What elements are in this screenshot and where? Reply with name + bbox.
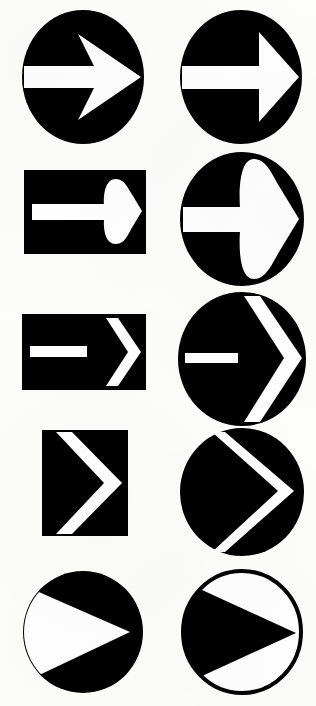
- figure-circle-outline-solid-triangle-black: [180, 568, 304, 696]
- arrow-symbol-sheet: Arrow Symbol Variations Scanned referenc…: [0, 0, 316, 706]
- figure-circle-chevron-only: [180, 428, 304, 556]
- circle-chevron-only-icon: [180, 428, 304, 556]
- figure-circle-arrow-straight-head: [180, 10, 302, 144]
- circle-bar-and-chevron-icon: [178, 292, 306, 426]
- circle-outline-solid-triangle-black-icon: [180, 568, 304, 696]
- rectangle-bar-and-chevron-icon: [22, 314, 146, 390]
- circle-negative-triangle-white-icon: [22, 570, 144, 694]
- figure-rectangle-bar-and-chevron: [22, 314, 146, 390]
- figure-rectangle-chevron-only: [42, 430, 128, 536]
- figure-circle-arrow-rounded-head: [180, 152, 304, 286]
- circle-arrow-notched-head-icon: [22, 10, 144, 144]
- rectangle-chevron-only-icon: [42, 430, 128, 536]
- figure-circle-bar-and-chevron: [178, 292, 306, 426]
- figure-rectangle-arrow-rounded-head: [24, 170, 146, 254]
- circle-arrow-rounded-head-icon: [180, 152, 304, 286]
- figure-circle-negative-triangle-white: [22, 570, 144, 694]
- circle-arrow-straight-head-icon: [180, 10, 302, 144]
- rectangle-arrow-rounded-head-icon: [24, 170, 146, 254]
- figure-circle-arrow-notched-head: [22, 10, 144, 144]
